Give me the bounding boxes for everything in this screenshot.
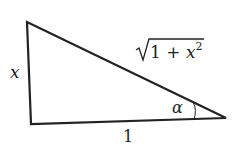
label-side-1: 1 <box>123 127 133 146</box>
label-angle-alpha: α <box>172 98 183 117</box>
label-side-x: x <box>10 62 20 82</box>
hypotenuse-radicand: 1 + x2 <box>150 40 202 62</box>
radicand-x: x <box>186 42 196 62</box>
angle-arc-alpha <box>194 103 196 120</box>
radicand-exponent: 2 <box>195 40 202 53</box>
radicand-one-plus: 1 + <box>150 42 186 62</box>
triangle-diagram: x 1 α 1 + x2 <box>0 0 241 146</box>
right-triangle <box>27 22 226 124</box>
label-hypotenuse: 1 + x2 <box>136 39 204 62</box>
